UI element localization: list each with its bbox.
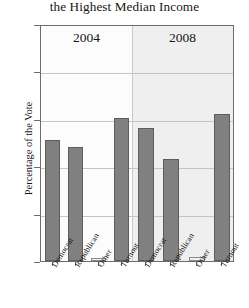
gridline (41, 73, 233, 74)
bar (45, 140, 59, 261)
panel-divider (132, 26, 133, 261)
bar (138, 128, 154, 261)
chart-title: the Highest Median Income (0, 0, 249, 15)
bar (163, 159, 179, 261)
y-tick-mark (34, 262, 40, 263)
bar (114, 118, 128, 261)
chart-figure: the Highest Median Income Percentage of … (0, 0, 249, 308)
panel-header-2004: 2004 (41, 30, 132, 46)
plot-area: 2004 2008 (40, 25, 234, 262)
panel-header-2008: 2008 (132, 30, 233, 46)
bar (214, 114, 230, 261)
y-axis-title: Percentage of the Vote (23, 69, 34, 229)
gridline (41, 121, 233, 122)
